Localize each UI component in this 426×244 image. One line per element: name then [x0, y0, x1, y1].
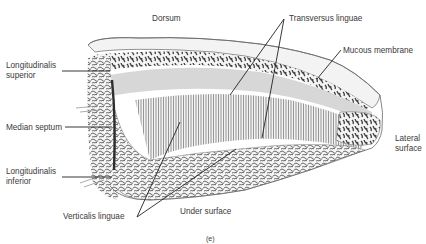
label-lateral-surface-line2: surface: [395, 144, 422, 154]
label-longitudinalis-inferior-line1: Longitudinalis: [6, 167, 56, 177]
label-lateral-surface-line1: Lateral: [395, 134, 420, 144]
label-longitudinalis-inferior-line2: inferior: [6, 177, 31, 187]
tongue-diagram: Dorsum Transversus linguae Mucous membra…: [0, 0, 426, 244]
label-longitudinalis-superior-line1: Longitudinalis: [6, 61, 56, 71]
label-mucous-membrane: Mucous membrane: [343, 46, 413, 56]
label-transversus-linguae: Transversus linguae: [289, 14, 362, 24]
figure-caption: (e): [206, 234, 215, 244]
label-verticalis-linguae: Verticalis linguae: [63, 212, 124, 222]
label-under-surface: Under surface: [180, 207, 231, 217]
label-longitudinalis-superior-line2: superior: [6, 71, 36, 81]
label-median-septum: Median septum: [6, 123, 62, 133]
lateral-tip: [336, 112, 380, 146]
label-dorsum: Dorsum: [152, 14, 181, 24]
